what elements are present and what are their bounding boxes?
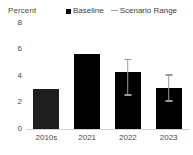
y-axis-tick-label: 2: [0, 98, 22, 106]
bar-group: 2023: [148, 0, 189, 155]
y-axis-tick-label: 4: [0, 72, 22, 80]
x-axis-tick-label: 2023: [160, 134, 178, 142]
plot-area: 02468 2010s202120222023: [0, 0, 193, 155]
bar-chart: Percent Baseline Scenario Range 02468 20…: [0, 0, 193, 155]
x-axis-tick-label: 2021: [78, 134, 96, 142]
bar-group: 2021: [67, 0, 108, 155]
bar-group: 2022: [108, 0, 149, 155]
y-axis-tick-label: 0: [0, 125, 22, 133]
error-bar: [168, 75, 170, 101]
x-axis-tick-label: 2010s: [35, 134, 57, 142]
error-bar-cap-upper: [165, 74, 172, 75]
y-axis-tick-label: 6: [0, 45, 22, 53]
error-bar: [127, 60, 129, 95]
y-axis-tick-label: 8: [0, 19, 22, 27]
error-bar-cap-lower: [124, 94, 131, 95]
bar-group: 2010s: [26, 0, 67, 155]
error-bar-cap-lower: [165, 100, 172, 101]
bar: [74, 54, 100, 129]
x-axis-tick-label: 2022: [119, 134, 137, 142]
bars-layer: 2010s202120222023: [26, 0, 189, 155]
error-bar-cap-upper: [124, 59, 131, 60]
bar: [33, 89, 59, 129]
